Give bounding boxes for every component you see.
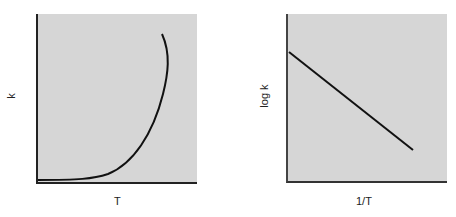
x-axis-label-left: T (114, 195, 121, 207)
plot-k-vs-t (36, 14, 197, 184)
plot-logk-vs-invt (286, 14, 447, 183)
y-axis-label-left: k (5, 93, 17, 99)
x-axis-label-right: 1/T (356, 195, 372, 207)
y-axis-label-right: log k (258, 84, 270, 107)
exponential-curve (38, 14, 197, 182)
linear-line (288, 14, 447, 181)
